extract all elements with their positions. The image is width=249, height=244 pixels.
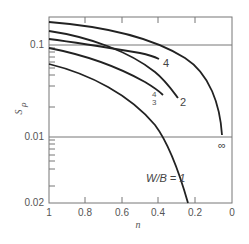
label-curve-4-3-den: 3 — [152, 98, 157, 107]
x-tick-0.6: 0.6 — [115, 207, 129, 218]
chart-canvas: 0.1 0.01 0.02 1 0.8 0.6 0.4 0.2 0 n S p … — [0, 0, 249, 244]
y-tick-0.01: 0.01 — [25, 131, 45, 142]
y-axis-title-sub: p — [19, 102, 28, 108]
y-tick-0.02: 0.02 — [25, 197, 45, 208]
y-axis-title-main: S — [13, 110, 24, 115]
top-ticks — [85, 17, 195, 23]
x-tick-0.4: 0.4 — [151, 207, 165, 218]
bottom-ticks — [85, 197, 195, 203]
y-tick-0.1: 0.1 — [30, 39, 44, 50]
x-tick-0.8: 0.8 — [78, 207, 92, 218]
x-axis-title: n — [136, 219, 141, 230]
y-axis-title: S p — [13, 102, 28, 115]
x-tick-0: 0 — [229, 207, 235, 218]
label-curve-wb-1: W/B = 1 — [146, 172, 185, 184]
x-tick-1: 1 — [46, 207, 52, 218]
curve-4 — [49, 39, 159, 59]
label-curve-4: 4 — [163, 57, 169, 69]
label-curve-2: 2 — [180, 96, 186, 108]
label-curve-infinity: ∞ — [218, 139, 226, 151]
curve-infinity — [49, 22, 222, 135]
left-ticks — [49, 48, 55, 186]
x-tick-0.2: 0.2 — [188, 207, 202, 218]
